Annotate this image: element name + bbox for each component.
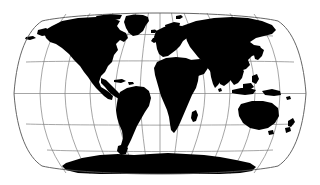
world-map-figure bbox=[0, 0, 320, 185]
world-map-canvas bbox=[0, 0, 320, 185]
